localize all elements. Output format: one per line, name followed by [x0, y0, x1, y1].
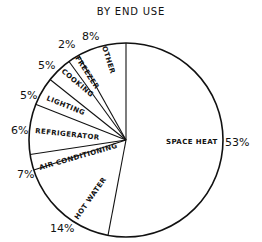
pie-svg: 8% 2% 5% 5% 6% 7% 14% 53% OTHER FREEZER …: [0, 0, 262, 242]
value-label-cooking: 5%: [38, 59, 55, 72]
value-label-freezer: 2%: [58, 38, 75, 51]
value-label-space-heat: 53%: [225, 136, 249, 149]
value-label-hot-water: 14%: [50, 222, 74, 235]
value-label-other: 8%: [82, 30, 99, 43]
value-label-refrigerator: 6%: [11, 124, 28, 137]
pie-chart: BY END USE 8% 2% 5% 5% 6% 7% 14% 53% OTH…: [0, 0, 262, 242]
value-label-lighting: 5%: [20, 89, 37, 102]
value-label-air-conditioning: 7%: [17, 168, 34, 181]
slice-label-space-heat: SPACE HEAT: [166, 138, 218, 146]
